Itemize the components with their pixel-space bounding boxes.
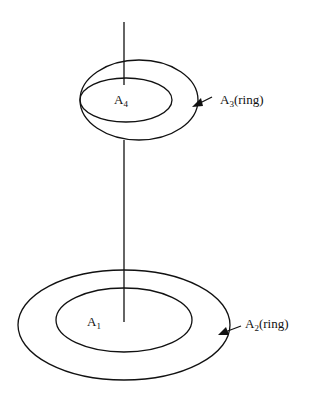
a2-arrow-head-icon: [218, 327, 229, 335]
label-a4: A4: [114, 92, 128, 109]
ring-diagram: A4 A3(ring) A1 A2(ring): [0, 0, 309, 400]
label-a2-ring: A2(ring): [245, 316, 289, 333]
upper-outer-ellipse: [80, 60, 198, 140]
label-a1: A1: [87, 314, 101, 331]
label-a3-ring: A3(ring): [220, 92, 264, 109]
